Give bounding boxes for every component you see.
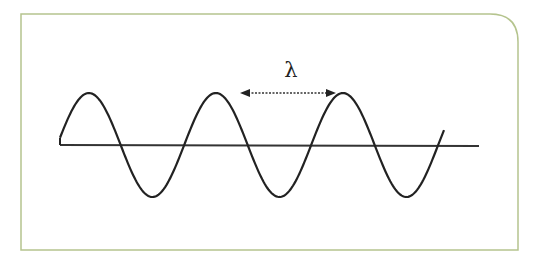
equilibrium-baseline <box>60 145 479 146</box>
wave-diagram <box>0 0 537 262</box>
wavelength-label: λ <box>280 58 302 82</box>
